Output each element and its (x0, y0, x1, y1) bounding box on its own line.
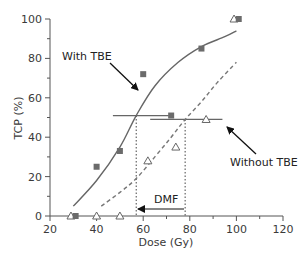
x-tick-label: 100 (226, 223, 247, 236)
square-marker (168, 113, 174, 119)
x-axis: 20406080100120 (43, 216, 294, 236)
with-tbe-markers (73, 16, 242, 219)
y-tick-label: 100 (21, 13, 42, 26)
without-tbe-fit-curve (101, 62, 236, 206)
y-tick-label: 40 (28, 131, 42, 144)
square-marker (198, 46, 204, 52)
y-tick-label: 80 (28, 52, 42, 65)
x-tick-label: 60 (136, 223, 150, 236)
y-tick-label: 0 (35, 210, 42, 223)
square-marker (140, 71, 146, 77)
square-marker (236, 16, 242, 22)
x-tick-label: 20 (43, 223, 57, 236)
x-tick-label: 120 (273, 223, 294, 236)
with-tbe-arrow-icon (110, 63, 138, 90)
y-axis: 020406080100 (21, 13, 50, 223)
square-marker (117, 148, 123, 154)
x-tick-label: 40 (90, 223, 104, 236)
y-tick-label: 60 (28, 92, 42, 105)
x-tick-label: 80 (183, 223, 197, 236)
without-tbe-arrow-icon (227, 127, 256, 154)
square-marker (94, 164, 100, 170)
square-marker (73, 213, 79, 219)
with-tbe-label: With TBE (62, 50, 112, 63)
y-tick-label: 20 (28, 171, 42, 184)
triangle-marker (172, 143, 180, 150)
triangle-marker (144, 157, 152, 164)
dmf-label: DMF (154, 193, 178, 206)
without-tbe-label: Without TBE (230, 156, 298, 169)
x-axis-label: Dose (Gy) (139, 236, 194, 249)
dose-response-chart: 020406080100 20406080100120 Dose (Gy) TC… (0, 0, 307, 263)
y-axis-label: TCP (%) (12, 97, 25, 141)
without-tbe-markers (67, 15, 238, 219)
